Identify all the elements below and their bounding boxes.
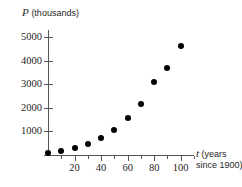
- x-axis-minor-tick: [88, 156, 89, 159]
- x-axis-tick-label: 60: [115, 162, 141, 173]
- y-axis-tick-label-text: 4000: [8, 55, 42, 66]
- x-axis-tick-label: 100: [168, 162, 194, 173]
- x-axis-title: t (years since 1900): [196, 148, 242, 171]
- x-axis-minor-tick: [194, 156, 195, 159]
- y-axis-tick-label-text: 5000: [8, 31, 42, 42]
- x-axis-tick-label: 20: [62, 162, 88, 173]
- x-axis-minor-tick: [167, 156, 168, 159]
- data-point: [138, 101, 144, 107]
- x-axis-minor-tick: [141, 156, 142, 159]
- scatter-chart-figure: P (thousands) 10002000300040005000 20406…: [0, 0, 242, 187]
- x-axis-unit-line2: since 1900): [196, 160, 242, 170]
- x-axis-minor-tick: [114, 156, 115, 159]
- y-axis-tick-label: 1000: [6, 125, 42, 137]
- x-axis-tick: [154, 156, 155, 161]
- x-axis-line: [44, 155, 194, 156]
- y-axis-tick: [44, 108, 53, 109]
- x-axis-symbol: t: [196, 147, 199, 159]
- data-point: [72, 145, 78, 151]
- y-axis-tick-label: 3000: [6, 78, 42, 90]
- y-axis-tick: [44, 61, 53, 62]
- data-point: [164, 65, 170, 71]
- x-axis-tick: [128, 156, 129, 161]
- data-point: [85, 141, 91, 147]
- data-point: [151, 79, 157, 85]
- x-axis-tick: [101, 156, 102, 161]
- y-axis-tick-label: 4000: [6, 55, 42, 67]
- x-axis-tick-label: 80: [141, 162, 167, 173]
- x-axis-minor-tick: [61, 156, 62, 159]
- y-axis-tick: [44, 84, 53, 85]
- x-axis-tick: [181, 156, 182, 161]
- x-axis-tick: [75, 156, 76, 161]
- y-axis-tick-label-text: 2000: [8, 102, 42, 113]
- y-axis-line: [48, 30, 49, 156]
- data-point: [178, 43, 184, 49]
- data-point: [58, 148, 64, 154]
- y-axis-tick: [44, 37, 53, 38]
- x-axis-unit-line1: (years: [202, 149, 227, 159]
- data-point: [45, 150, 51, 156]
- y-axis-tick: [44, 131, 53, 132]
- y-axis-tick-label: 5000: [6, 31, 42, 43]
- data-point: [111, 127, 117, 133]
- y-axis-tick-label-text: 1000: [8, 125, 42, 136]
- y-axis-tick-label: 2000: [6, 102, 42, 114]
- x-axis-tick-label: 40: [88, 162, 114, 173]
- data-point: [98, 135, 104, 141]
- y-axis-tick-label-text: 3000: [8, 78, 42, 89]
- data-point: [125, 115, 131, 121]
